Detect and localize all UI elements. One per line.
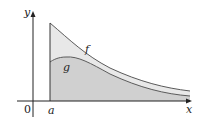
curve-f-label: f [84, 43, 91, 56]
y-axis-label: y [23, 6, 31, 19]
area-between-curves-diagram: y x 0 a f g [0, 0, 202, 125]
boundary-label-a: a [48, 104, 55, 117]
y-axis-arrow-icon [31, 11, 36, 17]
origin-label: 0 [24, 103, 31, 116]
curve-g-label: g [63, 61, 70, 74]
x-axis-label: x [186, 103, 193, 116]
